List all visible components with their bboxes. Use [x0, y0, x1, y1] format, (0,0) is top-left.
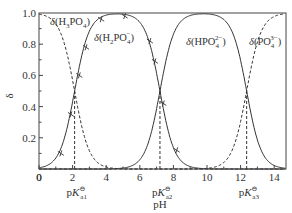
y-tick-label: 0.8 [22, 38, 36, 50]
series-label: δ(PO43−) [249, 34, 282, 50]
svg-text:0: 0 [36, 171, 42, 183]
x-tick-label: 10 [202, 171, 214, 183]
x-tick-label: 6 [137, 171, 143, 183]
series-label: δ(H3PO4) [50, 16, 90, 30]
x-tick-label: 14 [269, 171, 281, 183]
series-label: δ(H2PO4−) [94, 30, 134, 46]
data-marker [160, 100, 166, 106]
pka3-label: pK⊖a3 [239, 185, 260, 201]
x-tick-label: 4 [103, 171, 109, 183]
y-axis-label: δ [3, 93, 15, 98]
pka1-label: pK⊖a1 [67, 185, 88, 201]
y-tick-label: 0.4 [22, 101, 36, 113]
y-tick-label: 1.0 [22, 7, 36, 19]
x-tick-label: 2 [70, 171, 76, 183]
y-tick-label: 0.6 [22, 69, 36, 81]
y-tick-label: 0.2 [22, 132, 36, 144]
series-label: δ(HPO42−) [186, 34, 226, 50]
x-tick-label: 8 [171, 171, 177, 183]
x-tick-label: 12 [235, 171, 246, 183]
distribution-chart: 024681012140.20.40.60.81.00 δ pH pK⊖a1pK… [0, 0, 292, 213]
